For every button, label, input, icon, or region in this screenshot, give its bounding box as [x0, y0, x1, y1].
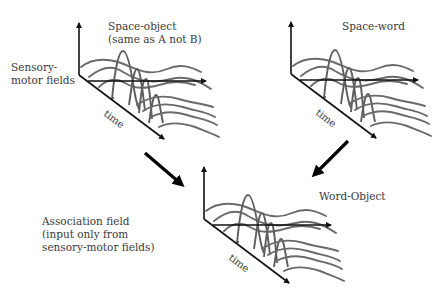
sensory-motor-fields-label: Sensory- motor fields	[11, 61, 75, 87]
flow-arrow-space-object-to-word-object	[145, 153, 180, 183]
time-axis-label: time	[227, 252, 252, 274]
time-axis-label: time	[314, 107, 339, 129]
word-object-field: time	[204, 167, 344, 283]
flow-arrow-space-word-to-word-object	[316, 141, 348, 173]
space-word-label: Space-word	[342, 20, 405, 33]
diagram-canvas: time time time	[0, 0, 440, 299]
association-field-label: Association field (input only from senso…	[42, 215, 155, 254]
space-object-label: Space-object (same as A not B)	[108, 20, 202, 46]
word-object-label: Word-Object	[319, 190, 386, 203]
space-word-field: time	[291, 22, 431, 138]
time-axis-label: time	[102, 108, 127, 130]
